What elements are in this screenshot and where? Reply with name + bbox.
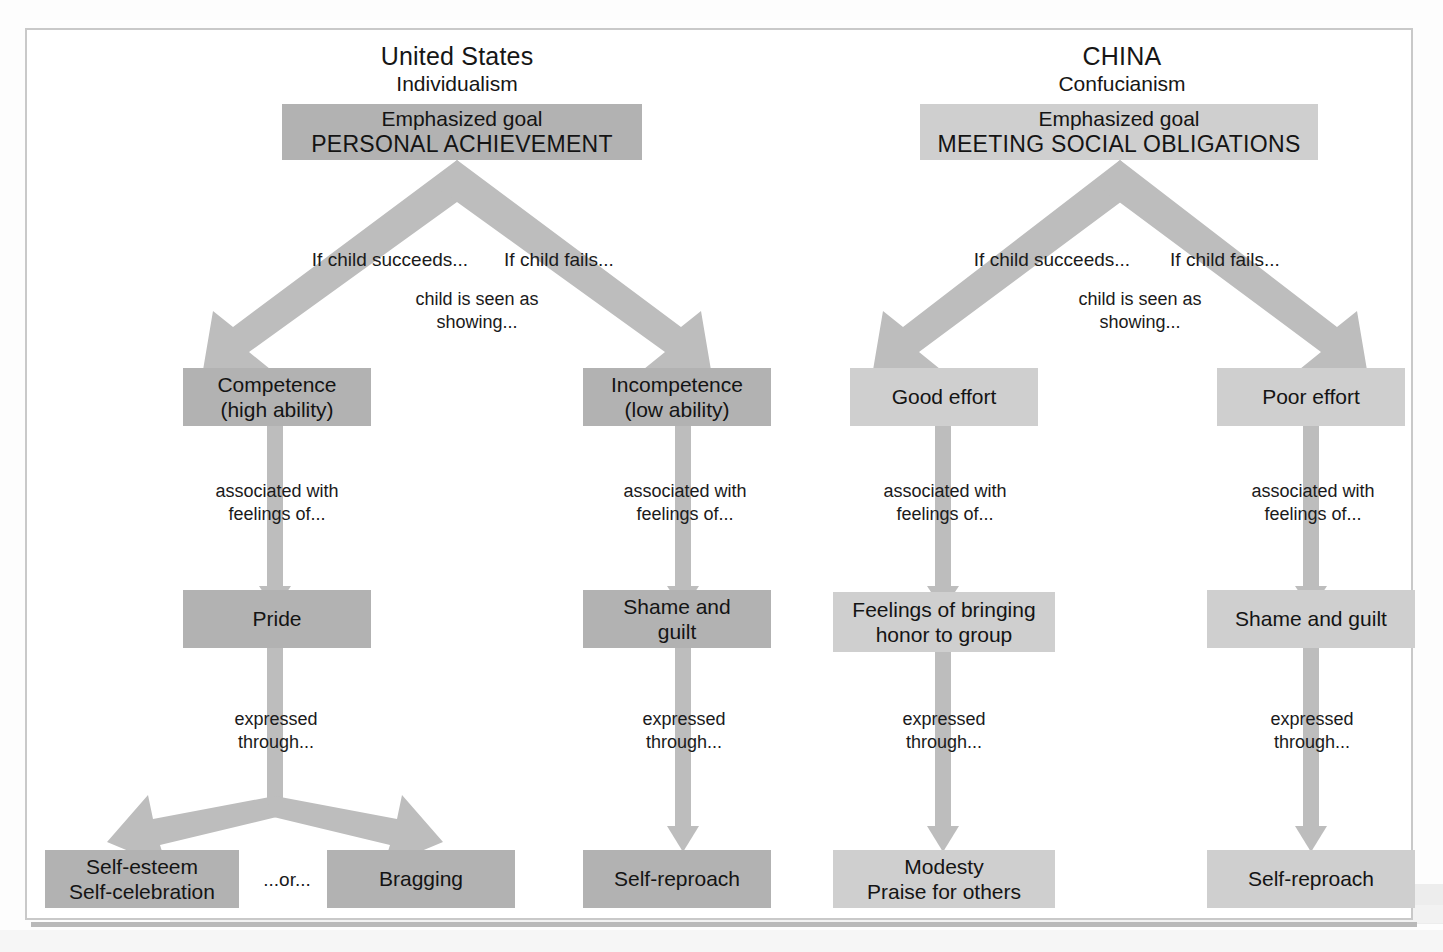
- cn-goal-box: Emphasized goal MEETING SOCIAL OBLIGATIO…: [920, 104, 1318, 160]
- cn-success-attribution-text: Good effort: [892, 384, 997, 409]
- us-success-attribution-box: Competence (high ability): [183, 368, 371, 426]
- us-success-outcome-a-box: Self-esteem Self-celebration: [45, 850, 239, 908]
- us-goal-label: Emphasized goal: [381, 106, 542, 131]
- cn-success-outcome-line1: Modesty: [904, 854, 983, 879]
- figure-page: United States Individualism Emphasized g…: [0, 0, 1443, 952]
- cn-failure-expressed-line2: through...: [1223, 731, 1401, 754]
- cn-success-feelings-line1: associated with: [853, 480, 1037, 503]
- us-outcome-connector-text: ...or...: [263, 869, 311, 890]
- cn-goal-label: Emphasized goal: [1038, 106, 1199, 131]
- us-success-emotion-text: Pride: [252, 606, 301, 631]
- us-failure-feelings-line1: associated with: [593, 480, 777, 503]
- cn-branch-common-line2: showing...: [1030, 311, 1250, 334]
- us-column-header: United States Individualism: [307, 42, 607, 96]
- us-failure-outcome-text: Self-reproach: [614, 866, 740, 891]
- cn-failure-expressed-line1: expressed: [1223, 708, 1401, 731]
- cn-success-expressed-line2: through...: [855, 731, 1033, 754]
- cn-country-name: CHINA: [972, 42, 1272, 72]
- us-failure-feelings-line2: feelings of...: [593, 503, 777, 526]
- us-success-outcome-b-box: Bragging: [327, 850, 515, 908]
- us-failure-outcome-box: Self-reproach: [583, 850, 771, 908]
- cn-branch-failure-label: If child fails...: [1125, 248, 1325, 272]
- us-branch-failure-text: If child fails...: [504, 249, 614, 270]
- cn-branch-success-text: If child succeeds...: [974, 249, 1130, 270]
- us-success-feelings-line1: associated with: [185, 480, 369, 503]
- us-success-attribution-line1: Competence: [217, 372, 336, 397]
- us-success-expressed-line2: through...: [187, 731, 365, 754]
- us-failure-expressed-label: expressed through...: [595, 708, 773, 753]
- us-success-outcome-a-line2: Self-celebration: [69, 879, 215, 904]
- cn-failure-emotion-box: Shame and guilt: [1207, 590, 1415, 648]
- us-branch-common-line1: child is seen as: [367, 288, 587, 311]
- cn-failure-expressed-label: expressed through...: [1223, 708, 1401, 753]
- us-success-expressed-line1: expressed: [187, 708, 365, 731]
- us-failure-attribution-line1: Incompetence: [611, 372, 743, 397]
- arrows-layer: [27, 30, 1411, 918]
- cn-success-feelings-line2: feelings of...: [853, 503, 1037, 526]
- us-success-expressed-arrow: [107, 648, 443, 867]
- cn-failure-outcome-box: Self-reproach: [1207, 850, 1415, 908]
- us-branch-failure-label: If child fails...: [459, 248, 659, 272]
- cn-goal-value: MEETING SOCIAL OBLIGATIONS: [937, 131, 1300, 159]
- us-success-emotion-box: Pride: [183, 590, 371, 648]
- cn-branch-common-line1: child is seen as: [1030, 288, 1250, 311]
- cn-column-header: CHINA Confucianism: [972, 42, 1272, 96]
- cn-failure-attribution-box: Poor effort: [1217, 368, 1405, 426]
- cn-success-emotion-box: Feelings of bringing honor to group: [833, 592, 1055, 652]
- cn-success-emotion-line1: Feelings of bringing: [852, 597, 1035, 622]
- plate-drop-shadow: [31, 922, 1417, 927]
- cn-branch-failure-text: If child fails...: [1170, 249, 1280, 270]
- us-failure-emotion-box: Shame and guilt: [583, 590, 771, 648]
- us-country-name: United States: [307, 42, 607, 72]
- us-failure-emotion-line2: guilt: [658, 619, 697, 644]
- cn-success-expressed-label: expressed through...: [855, 708, 1033, 753]
- us-philosophy: Individualism: [307, 72, 607, 97]
- figure-plate: United States Individualism Emphasized g…: [25, 28, 1413, 920]
- cn-branch-common-label: child is seen as showing...: [1030, 288, 1250, 333]
- cn-failure-outcome-text: Self-reproach: [1248, 866, 1374, 891]
- cn-success-outcome-box: Modesty Praise for others: [833, 850, 1055, 908]
- cn-philosophy: Confucianism: [972, 72, 1272, 97]
- cn-failure-feelings-line1: associated with: [1221, 480, 1405, 503]
- us-outcome-connector-label: ...or...: [245, 868, 329, 892]
- us-goal-value: PERSONAL ACHIEVEMENT: [311, 131, 613, 159]
- cn-success-emotion-line2: honor to group: [876, 622, 1013, 647]
- us-success-feelings-line2: feelings of...: [185, 503, 369, 526]
- cn-failure-feelings-line2: feelings of...: [1221, 503, 1405, 526]
- us-failure-attribution-line2: (low ability): [624, 397, 729, 422]
- cn-success-outcome-line2: Praise for others: [867, 879, 1021, 904]
- us-branch-common-line2: showing...: [367, 311, 587, 334]
- us-success-feelings-label: associated with feelings of...: [185, 480, 369, 525]
- us-branch-common-label: child is seen as showing...: [367, 288, 587, 333]
- us-success-expressed-label: expressed through...: [187, 708, 365, 753]
- us-success-outcome-b-text: Bragging: [379, 866, 463, 891]
- us-failure-feelings-label: associated with feelings of...: [593, 480, 777, 525]
- us-goal-box: Emphasized goal PERSONAL ACHIEVEMENT: [282, 104, 642, 160]
- cn-success-feelings-label: associated with feelings of...: [853, 480, 1037, 525]
- us-failure-attribution-box: Incompetence (low ability): [583, 368, 771, 426]
- cn-failure-attribution-text: Poor effort: [1262, 384, 1360, 409]
- us-branch-success-text: If child succeeds...: [312, 249, 468, 270]
- us-failure-expressed-line2: through...: [595, 731, 773, 754]
- scan-shading-bottom-edge: [0, 930, 1443, 952]
- cn-success-attribution-box: Good effort: [850, 368, 1038, 426]
- us-success-attribution-line2: (high ability): [220, 397, 333, 422]
- cn-failure-feelings-label: associated with feelings of...: [1221, 480, 1405, 525]
- us-failure-emotion-line1: Shame and: [623, 594, 730, 619]
- us-failure-expressed-line1: expressed: [595, 708, 773, 731]
- us-success-outcome-a-line1: Self-esteem: [86, 854, 198, 879]
- cn-success-expressed-line1: expressed: [855, 708, 1033, 731]
- cn-failure-emotion-text: Shame and guilt: [1235, 606, 1387, 631]
